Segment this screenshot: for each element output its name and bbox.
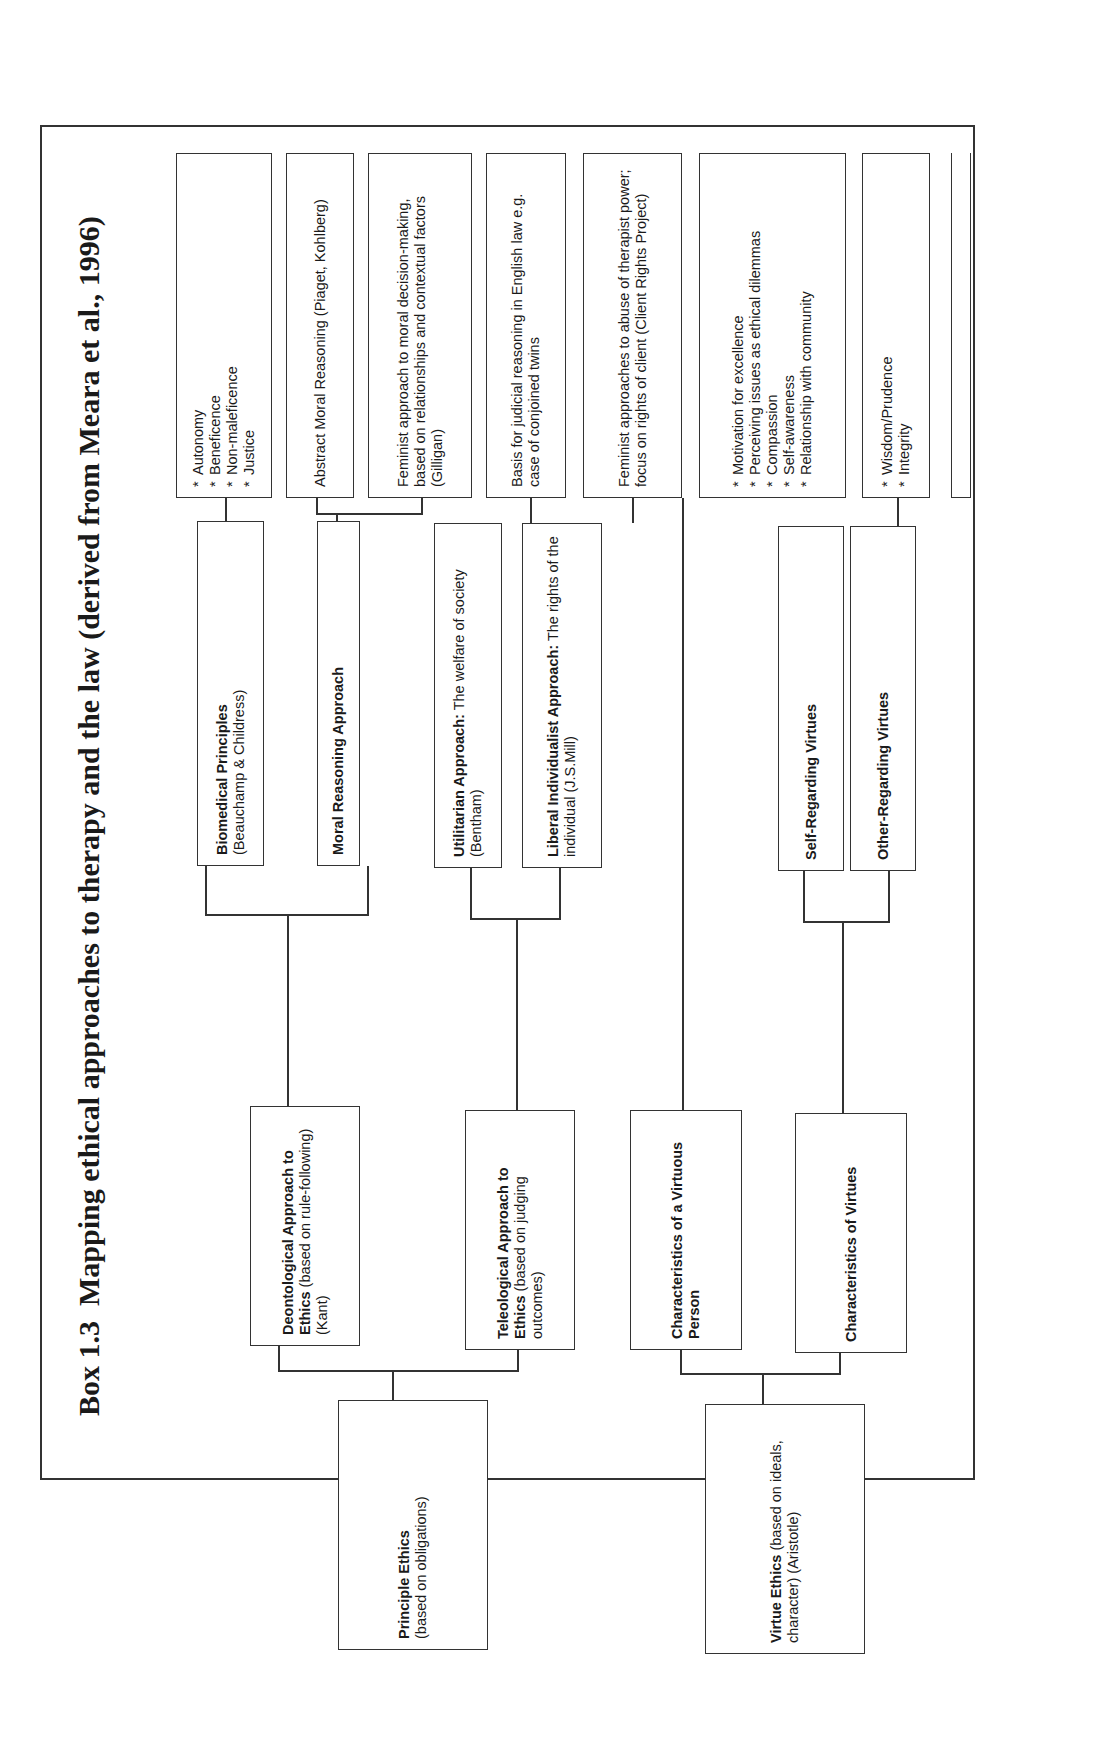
connector (762, 1375, 764, 1404)
node-desc: (based on obligations) (413, 1411, 430, 1639)
node-title: Self-Regarding Virtues (803, 704, 819, 860)
node-desc: (Beauchamp & Childress) (231, 532, 248, 855)
node-title: Virtue Ethics (768, 1555, 784, 1643)
leaf-text: Abstract Moral Reasoning (Piaget, Kohlbe… (312, 164, 329, 487)
node-principle-ethics: Principle Ethics (based on obligations) (338, 1400, 488, 1650)
connector (278, 1371, 518, 1373)
connector (680, 1350, 682, 1375)
list-item: Autonomy (190, 164, 207, 487)
node-title: Liberal Individualist Approach: (545, 645, 561, 857)
node-moral-reasoning: Moral Reasoning Approach (317, 521, 360, 866)
connector (842, 923, 844, 1113)
connector (278, 1346, 280, 1372)
rotated-page: Box 1.3 Mapping ethical approaches to th… (0, 0, 1112, 1746)
leaf-text: Basis for judicial reasoning in English … (509, 164, 543, 487)
node-biomedical: Biomedical Principles (Beauchamp & Child… (197, 521, 264, 866)
connector (287, 916, 289, 1106)
node-title: Utilitarian Approach: (451, 714, 467, 857)
connector (803, 871, 805, 923)
connector (530, 498, 532, 523)
connector (367, 866, 369, 916)
node-title: Moral Reasoning Approach (330, 667, 346, 855)
list-item: Integrity (896, 164, 913, 487)
node-self-regarding: Self-Regarding Virtues (778, 526, 844, 871)
leaf-feminist-moral: Feminist approach to moral decision-maki… (368, 153, 472, 498)
node-title: Biomedical Principles (214, 704, 230, 855)
connector (559, 868, 561, 920)
connector (225, 498, 227, 521)
node-title: Principle Ethics (396, 1530, 412, 1639)
list-item: Compassion (764, 164, 781, 487)
leaf-abstract-moral-reasoning: Abstract Moral Reasoning (Piaget, Kohlbe… (286, 153, 354, 498)
list-item: Non-maleficence (224, 164, 241, 487)
leaf-text: Feminist approaches to abuse of therapis… (616, 164, 650, 487)
box-number: Box 1.3 (72, 1321, 106, 1416)
node-deontological: Deontological Approach to Ethics (based … (250, 1106, 360, 1346)
leaf-feminist-abuse: Feminist approaches to abuse of therapis… (583, 153, 682, 498)
node-characteristics-of-virtues: Characteristics of Virtues (795, 1113, 907, 1353)
leaf-virtuous-person-list: Motivation for excellence Perceiving iss… (699, 153, 846, 498)
list-item: Motivation for excellence (730, 164, 747, 487)
connector (516, 920, 518, 1110)
list-item: Beneficence (207, 164, 224, 487)
list-item: Wisdom/Prudence (879, 164, 896, 487)
connector (205, 915, 368, 917)
list-item: Self-awareness (781, 164, 798, 487)
connector (205, 866, 207, 916)
node-liberal-individualist: Liberal Individualist Approach: The righ… (522, 523, 602, 868)
leaf-biomedical-principles-list: Autonomy Beneficence Non-maleficence Jus… (176, 153, 272, 498)
list-item: Relationship with community (798, 164, 815, 487)
leaf-text: Feminist approach to moral decision-maki… (395, 164, 446, 487)
node-title: Other-Regarding Virtues (875, 692, 891, 860)
leaf-self-regarding-list: Wisdom/Prudence Integrity (862, 153, 930, 498)
node-utilitarian: Utilitarian Approach: The welfare of soc… (434, 523, 502, 868)
node-virtue-ethics: Virtue Ethics (based on ideals, characte… (705, 1404, 865, 1654)
connector (316, 498, 318, 515)
list-item: Justice (241, 164, 258, 487)
connector (888, 871, 890, 923)
connector (803, 922, 889, 924)
connector (839, 1353, 841, 1375)
leaf-judicial-reasoning: Basis for judicial reasoning in English … (486, 153, 566, 498)
connector (470, 919, 560, 921)
connector (336, 515, 338, 521)
node-virtuous-person: Characteristics of a Virtuous Person (630, 1110, 742, 1350)
box-title-text: Mapping ethical approaches to therapy an… (72, 216, 106, 1306)
node-other-regarding: Other-Regarding Virtues (850, 526, 916, 871)
connector (517, 1350, 519, 1372)
connector (470, 868, 472, 920)
node-title: Characteristics of Virtues (843, 1167, 859, 1342)
node-teleological: Teleological Approach to Ethics (based o… (465, 1110, 575, 1350)
list-item: Perceiving issues as ethical dilemmas (747, 164, 764, 487)
connector (680, 1374, 840, 1376)
connector (421, 498, 423, 515)
leaf-other-regarding-list (951, 153, 971, 498)
connector (897, 498, 899, 526)
connector (316, 514, 422, 516)
node-title: Characteristics of a Virtuous Person (669, 1142, 702, 1339)
connector (632, 498, 634, 523)
connector (392, 1372, 394, 1400)
connector (682, 498, 684, 1110)
